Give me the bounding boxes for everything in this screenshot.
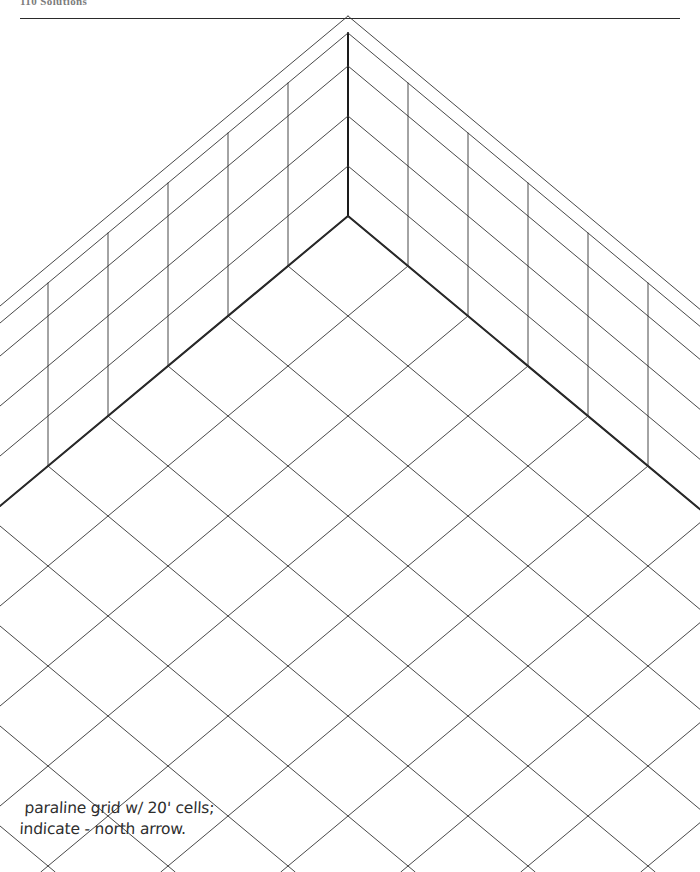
handwritten-caption: paraline grid w/ 20' cells; indicate - n… — [19, 798, 321, 840]
drawing-page: 110 Solutions paraline grid w/ 20' cells… — [0, 0, 700, 872]
floor-grid-line-b — [281, 523, 700, 872]
left-wall-diagonal — [0, 166, 348, 456]
left-wall-ridge — [0, 33, 348, 323]
left-wall-diagonal — [0, 16, 348, 306]
right-wall-ridge — [348, 33, 700, 326]
right-wall-diagonal — [348, 16, 700, 309]
floor-grid-line-a — [288, 266, 700, 609]
paraline-grid-drawing — [0, 0, 700, 872]
left-wall-diagonal — [0, 216, 348, 506]
floor-grid-line-b — [0, 316, 468, 706]
right-wall-diagonal — [348, 216, 700, 509]
paraline-grid-svg — [0, 0, 700, 872]
grid-line-group — [0, 16, 700, 872]
left-wall-diagonal — [0, 66, 348, 356]
floor-grid-line-b — [0, 266, 408, 606]
right-wall-diagonal — [348, 166, 700, 459]
caption-line-2: indicate - north arrow. — [19, 819, 320, 840]
floor-grid-line-b — [521, 723, 700, 872]
left-wall-diagonal — [0, 116, 348, 406]
floor-grid-line-b — [401, 623, 700, 872]
floor-grid-line-b — [641, 823, 700, 872]
floor-grid-line-b — [0, 366, 528, 806]
floor-grid-line-a — [228, 316, 700, 709]
right-wall-diagonal — [348, 66, 700, 359]
caption-line-1: paraline grid w/ 20' cells; — [24, 798, 321, 819]
floor-grid-line-a — [168, 366, 700, 809]
right-wall-diagonal — [348, 116, 700, 409]
